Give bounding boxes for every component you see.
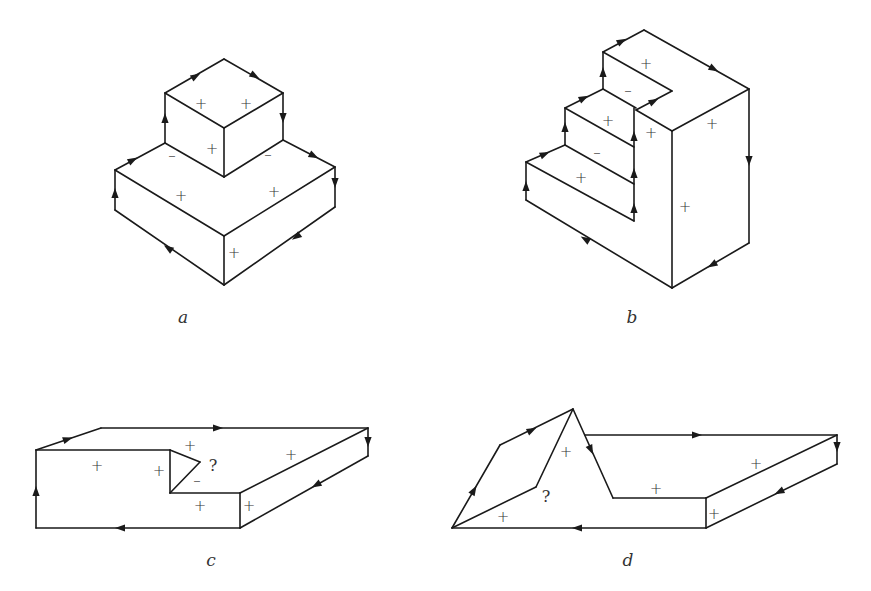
- edge-line: [115, 143, 165, 170]
- plus-mark: +: [679, 198, 692, 216]
- arrowhead-icon: [213, 424, 223, 431]
- minus-mark: –: [264, 146, 272, 164]
- minus-mark: –: [168, 147, 176, 165]
- figure-b-caption: b: [627, 307, 638, 327]
- plus-mark: +: [228, 244, 241, 262]
- arrowhead-icon: [62, 437, 73, 444]
- arrowhead-icon: [630, 203, 637, 213]
- figure-b-sign-marks: +–+++–++: [575, 55, 719, 216]
- plus-mark: +: [195, 95, 208, 113]
- plus-mark: +: [194, 497, 207, 515]
- figure-a-caption: a: [178, 307, 188, 327]
- question-mark: ?: [209, 456, 218, 475]
- arrowhead-icon: [708, 259, 718, 267]
- arrowhead-icon: [249, 70, 259, 78]
- arrowhead-icon: [572, 524, 582, 531]
- arrowhead-icon: [630, 168, 637, 178]
- arrowhead-icon: [630, 131, 637, 141]
- arrowhead-icon: [190, 74, 200, 82]
- edge-line: [565, 108, 634, 147]
- plus-mark: +: [708, 505, 721, 523]
- plus-mark: +: [750, 455, 763, 473]
- plus-mark: +: [497, 508, 510, 526]
- edge-line: [573, 409, 613, 498]
- arrowhead-icon: [708, 63, 718, 71]
- edge-line: [224, 93, 283, 128]
- arrowhead-icon: [468, 486, 476, 496]
- edge-line: [240, 428, 368, 493]
- figure-d: +++++? d: [452, 409, 841, 570]
- arrowhead-icon: [115, 524, 125, 531]
- plus-mark: +: [240, 95, 253, 113]
- edge-line: [283, 140, 335, 167]
- arrowhead-icon: [599, 67, 606, 77]
- arrowhead-icon: [692, 431, 702, 438]
- arrowhead-icon: [526, 428, 537, 436]
- arrowhead-icon: [616, 39, 627, 47]
- edge-line: [603, 52, 672, 91]
- edge-line: [644, 30, 749, 89]
- edge-line: [224, 140, 283, 177]
- arrowhead-icon: [578, 96, 589, 104]
- arrowhead-icon: [745, 156, 752, 166]
- edge-line: [706, 464, 837, 528]
- edge-line: [224, 167, 335, 236]
- arrowhead-icon: [312, 479, 322, 487]
- figure-d-caption: d: [623, 550, 634, 570]
- arrowhead-icon: [833, 442, 840, 452]
- plus-mark: +: [243, 497, 256, 515]
- figure-b-arrow-icons: [522, 39, 752, 268]
- diagram-canvas: +++––+++ a +–+++–++ b +++–+++? c +++++? …: [0, 0, 871, 591]
- arrowhead-icon: [308, 151, 319, 159]
- arrowhead-icon: [648, 99, 659, 107]
- arrowhead-icon: [32, 486, 39, 496]
- arrowhead-icon: [522, 181, 529, 191]
- minus-mark: –: [193, 472, 201, 490]
- minus-mark: –: [593, 144, 601, 162]
- edge-line: [240, 456, 368, 528]
- plus-mark: +: [706, 115, 719, 133]
- figure-a-arrow-icons: [111, 70, 338, 253]
- plus-mark: +: [650, 480, 663, 498]
- arrowhead-icon: [161, 113, 168, 123]
- figure-a: +++––+++ a: [111, 59, 338, 327]
- plus-mark: +: [91, 457, 104, 475]
- figure-b: +–+++–++ b: [522, 30, 752, 327]
- plus-mark: +: [602, 112, 615, 130]
- plus-mark: +: [206, 140, 219, 158]
- edge-line: [115, 170, 224, 236]
- plus-mark: +: [640, 55, 653, 73]
- plus-mark: +: [560, 443, 573, 461]
- figure-c-sign-marks: +++–+++?: [91, 437, 298, 515]
- plus-mark: +: [645, 124, 658, 142]
- question-mark: ?: [542, 487, 551, 506]
- arrowhead-icon: [586, 444, 593, 455]
- figure-c-arrow-icons: [32, 424, 371, 531]
- arrowhead-icon: [539, 152, 550, 159]
- arrowhead-icon: [561, 122, 568, 132]
- plus-mark: +: [268, 183, 281, 201]
- figure-c-caption: c: [206, 550, 216, 570]
- edge-line: [500, 409, 573, 445]
- plus-mark: +: [153, 462, 166, 480]
- plus-mark: +: [285, 446, 298, 464]
- edge-line: [526, 200, 672, 288]
- edge-line: [224, 207, 335, 285]
- figure-a-edges: [115, 59, 335, 285]
- plus-mark: +: [575, 169, 588, 187]
- arrowhead-icon: [279, 113, 286, 123]
- minus-mark: –: [624, 82, 632, 100]
- figure-c: +++–+++? c: [32, 424, 371, 570]
- edge-line: [706, 435, 837, 498]
- arrowhead-icon: [111, 188, 118, 198]
- plus-mark: +: [184, 437, 197, 455]
- arrowhead-icon: [331, 178, 338, 188]
- figure-d-edges: [452, 409, 837, 528]
- arrowhead-icon: [364, 437, 371, 447]
- arrowhead-icon: [775, 487, 786, 495]
- arrowhead-icon: [127, 158, 138, 166]
- plus-mark: +: [175, 187, 188, 205]
